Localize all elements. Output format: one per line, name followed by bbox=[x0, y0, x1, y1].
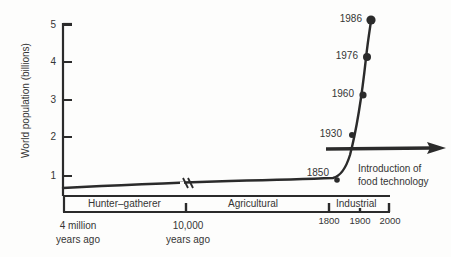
era-label-agricultural: Agricultural bbox=[228, 198, 278, 209]
annotation-line-2: food technology bbox=[358, 176, 429, 189]
data-point-1850 bbox=[334, 177, 340, 183]
data-point-1986 bbox=[366, 15, 375, 24]
data-point-1976 bbox=[363, 53, 371, 61]
x-caption-10000-line1: 10,000 bbox=[148, 220, 228, 232]
y-tick-label-5: 5 bbox=[42, 19, 56, 30]
food-technology-arrow-shaft bbox=[326, 148, 432, 149]
x-caption-4-million-line1: 4 million bbox=[38, 220, 118, 232]
y-axis-label: World population (billions) bbox=[20, 31, 31, 171]
data-point-1930 bbox=[349, 132, 355, 138]
era-label-industrial: Industrial bbox=[336, 198, 377, 209]
x-caption-4-million-line2: years ago bbox=[38, 234, 118, 246]
population-curve bbox=[63, 21, 371, 188]
x-tick-label-2000: 2000 bbox=[372, 215, 408, 226]
era-label-hunter-gatherer: Hunter–gatherer bbox=[88, 198, 161, 209]
y-tick-label-4: 4 bbox=[42, 56, 56, 67]
x-caption-10000-line2: years ago bbox=[148, 234, 228, 246]
point-label-1986: 1986 bbox=[316, 13, 362, 24]
y-tick-label-2: 2 bbox=[42, 131, 56, 142]
food-technology-annotation: Introduction of food technology bbox=[358, 163, 429, 188]
data-point-1960 bbox=[359, 91, 366, 98]
y-tick-label-1: 1 bbox=[42, 170, 56, 181]
point-label-1960: 1960 bbox=[308, 88, 354, 99]
point-label-1930: 1930 bbox=[296, 128, 342, 139]
annotation-line-1: Introduction of bbox=[358, 163, 429, 176]
point-label-1976: 1976 bbox=[312, 50, 358, 61]
point-label-1850: 1850 bbox=[283, 167, 329, 178]
y-tick-label-3: 3 bbox=[42, 94, 56, 105]
world-population-chart: World population (billions) 5 4 3 2 1 Hu… bbox=[0, 0, 451, 257]
